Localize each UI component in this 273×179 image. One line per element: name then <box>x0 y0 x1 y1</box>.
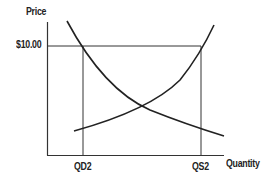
qd2-tick-label: QD2 <box>74 161 91 172</box>
supply-demand-plot <box>0 0 273 179</box>
supply-curve <box>74 25 214 131</box>
demand-curve <box>67 21 224 136</box>
price-tick-label: $10.00 <box>16 39 41 50</box>
x-axis-label: Quantity <box>226 158 260 169</box>
y-axis-label: Price <box>26 6 46 17</box>
qs2-tick-label: QS2 <box>192 161 209 172</box>
